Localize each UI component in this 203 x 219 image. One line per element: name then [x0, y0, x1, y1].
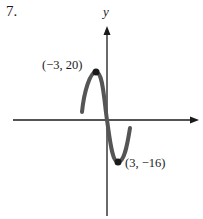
min-point-label: (3, −16): [125, 156, 165, 171]
max-point-label: (−3, 20): [42, 58, 82, 73]
max-point: [93, 69, 100, 76]
graph: [0, 0, 203, 219]
y-axis-arrow-icon: [104, 26, 111, 35]
x-axis-arrow-icon: [190, 117, 199, 124]
min-point: [115, 159, 122, 166]
cubic-curve: [82, 72, 130, 162]
